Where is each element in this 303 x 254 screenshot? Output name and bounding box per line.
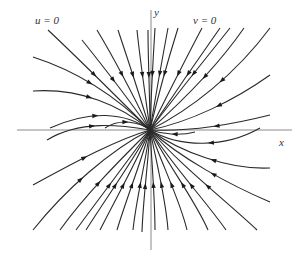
trajectory-curve [60, 130, 150, 230]
phase-portrait-svg [0, 0, 303, 254]
direction-arrow-icon [119, 71, 126, 78]
trajectory-curve [33, 130, 150, 230]
direction-arrow-icon [151, 182, 156, 188]
direction-arrow-icon [210, 171, 217, 178]
direction-arrow-icon [210, 157, 217, 163]
direction-arrow-icon [215, 102, 222, 109]
trajectory-curve [86, 130, 150, 230]
direction-arrow-icon [92, 113, 98, 118]
x-axis-label: x [279, 137, 284, 148]
nullcline-label-v: v = 0 [193, 15, 216, 26]
trajectory-curve [76, 130, 150, 230]
direction-arrow-icon [168, 181, 174, 188]
trajectory-curve [47, 126, 150, 140]
direction-arrow-icon [86, 94, 93, 100]
trajectory-curve [150, 130, 208, 230]
trajectory-curve [150, 28, 220, 130]
phase-portrait-figure: u = 0 v = 0 y x [0, 0, 303, 254]
trajectory-curve [150, 115, 270, 130]
nullcline-label-u: u = 0 [35, 15, 59, 26]
trajectory-curve [117, 130, 150, 230]
direction-arrow-icon [81, 154, 88, 161]
direction-arrow-icon [147, 72, 152, 78]
direction-arrow-icon [159, 181, 164, 188]
trajectory-curve [150, 130, 270, 202]
direction-arrow-icon [120, 182, 127, 189]
direction-arrow-icon [208, 140, 214, 145]
y-axis-label: y [154, 7, 159, 18]
direction-arrow-icon [89, 124, 95, 129]
direction-arrow-icon [175, 70, 182, 77]
direction-arrow-icon [86, 79, 93, 86]
trajectory-curve [150, 28, 244, 130]
direction-arrow-icon [130, 71, 136, 78]
trajectory-curve [33, 91, 150, 130]
trajectory-curve [150, 130, 226, 230]
direction-arrow-icon [129, 181, 135, 188]
trajectory-curve [150, 28, 230, 130]
trajectory-curve [150, 28, 168, 130]
direction-arrow-icon [179, 181, 186, 188]
trajectory-curve [150, 28, 270, 130]
direction-arrow-icon [143, 183, 148, 189]
direction-arrow-icon [172, 132, 178, 137]
direction-arrow-icon [122, 120, 128, 124]
direction-arrow-icon [112, 182, 119, 189]
direction-arrow-icon [162, 70, 168, 77]
